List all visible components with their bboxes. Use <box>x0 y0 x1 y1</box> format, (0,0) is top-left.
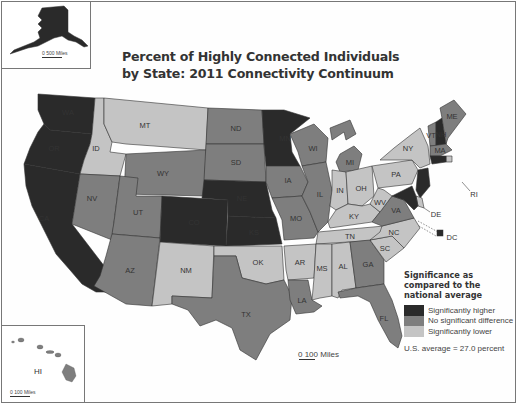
label-DC: DC <box>447 233 458 242</box>
legend-label-no-difference: No significant difference <box>428 316 513 325</box>
label-IN: IN <box>336 186 344 195</box>
alaska-scale-bar <box>42 57 62 58</box>
dc-leader-2 <box>419 226 436 236</box>
label-NM: NM <box>180 266 192 275</box>
label-OH: OH <box>355 184 366 193</box>
label-CA: CA <box>39 214 49 223</box>
us-average-note: U.S. average = 27.0 percent <box>404 344 514 353</box>
hawaii-scale-label: 0 100 Miles <box>10 389 36 395</box>
alaska-inset: 0 500 Miles <box>1 1 91 69</box>
label-SD: SD <box>231 158 242 167</box>
label-MO: MO <box>290 214 302 223</box>
label-WY: WY <box>157 169 169 178</box>
de-leader <box>424 208 430 212</box>
alaska-map <box>2 2 90 68</box>
title-line-2: by State: 2011 Connectivity Continuum <box>122 65 399 82</box>
label-WA: WA <box>62 108 74 117</box>
label-CO: CO <box>188 218 199 227</box>
label-OR: OR <box>48 144 60 153</box>
label-NC: NC <box>389 228 400 237</box>
label-HI: HI <box>34 367 42 376</box>
label-LA: LA <box>297 296 306 305</box>
state-NJ[interactable] <box>416 168 430 198</box>
label-MT: MT <box>140 121 151 130</box>
hawaii-scale-bar <box>10 396 30 397</box>
label-KY: KY <box>349 212 359 221</box>
label-MI: MI <box>346 158 354 167</box>
legend-label-higher: Significantly higher <box>428 306 495 315</box>
legend-swatch-lower <box>404 326 424 337</box>
label-RI: RI <box>470 190 478 199</box>
dc-leader <box>418 221 438 232</box>
legend-swatch-no-difference <box>404 316 424 327</box>
label-TX: TX <box>241 310 251 319</box>
label-MS: MS <box>316 264 327 273</box>
main-scale-bar <box>299 359 315 360</box>
label-VA: VA <box>391 206 400 215</box>
map-title: Percent of Highly Connected Individuals … <box>122 48 399 82</box>
label-NE: NE <box>237 194 247 203</box>
label-UT: UT <box>133 208 143 217</box>
legend-item-lower[interactable]: Significantly lower <box>404 326 514 337</box>
label-AZ: AZ <box>125 266 135 275</box>
label-DE: DE <box>431 210 441 219</box>
label-NV: NV <box>87 194 97 203</box>
state-DC-callout[interactable] <box>437 230 443 236</box>
label-MA: MA <box>434 146 445 155</box>
ri-leader <box>462 182 470 191</box>
label-PA: PA <box>391 170 400 179</box>
state-HI[interactable] <box>12 338 77 382</box>
state-RI[interactable] <box>446 156 452 162</box>
state-AK[interactable] <box>10 6 88 54</box>
legend-label-lower: Significantly lower <box>428 327 492 336</box>
label-ME: ME <box>446 112 457 121</box>
label-KS: KS <box>249 228 259 237</box>
label-WV: WV <box>374 198 386 207</box>
label-ID: ID <box>92 144 100 153</box>
state-CT[interactable] <box>430 156 446 164</box>
legend-item-no-difference[interactable]: No significant difference <box>404 316 514 327</box>
label-WI: WI <box>308 144 317 153</box>
alaska-scale-label: 0 500 Miles <box>42 50 68 56</box>
main-scale-label: 0 100 Miles <box>298 350 339 359</box>
state-FL[interactable] <box>338 284 402 348</box>
label-NH: NH <box>436 130 447 139</box>
legend-item-higher[interactable]: Significantly higher <box>404 305 514 316</box>
label-IL: IL <box>317 190 323 199</box>
state-MT[interactable] <box>104 98 208 150</box>
label-MN: MN <box>279 134 291 143</box>
label-AR: AR <box>295 258 306 267</box>
label-GA: GA <box>363 260 374 269</box>
legend-swatch-higher <box>404 305 424 316</box>
legend-items: Significantly higher No significant diff… <box>404 305 514 337</box>
label-FL: FL <box>380 314 389 323</box>
label-NY: NY <box>403 144 413 153</box>
hawaii-inset: HI 0 100 Miles <box>1 325 85 403</box>
label-AL: AL <box>338 262 347 271</box>
label-IA: IA <box>284 176 291 185</box>
label-SC: SC <box>380 244 391 253</box>
label-OK: OK <box>253 258 264 267</box>
label-ND: ND <box>231 124 242 133</box>
legend: Significance as compared to the national… <box>404 270 514 353</box>
legend-title: Significance as compared to the national… <box>404 270 514 300</box>
title-line-1: Percent of Highly Connected Individuals <box>122 48 399 65</box>
label-TN: TN <box>345 232 355 241</box>
